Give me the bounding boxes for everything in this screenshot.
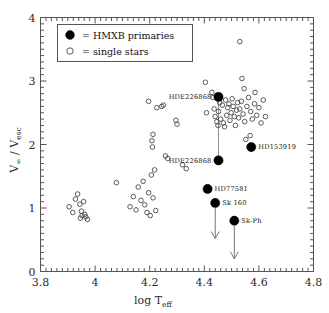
x-axis-title-sub: eff [162, 300, 172, 309]
hmxb-primary-point [211, 198, 220, 207]
hmxb-primary-point [214, 156, 223, 165]
hmxb-primary-point [230, 216, 239, 225]
y-tick-label: 3 [29, 75, 36, 88]
x-tick-label: 4.8 [305, 276, 323, 289]
hmxb-primary-point [203, 184, 212, 193]
scatter-plot-figure: 3.844.24.44.64.8 01234 HDE226868HDE22686… [0, 0, 329, 313]
data-point-label: HDE226868 [169, 157, 212, 165]
data-point-label: HD77581 [215, 185, 248, 193]
y-tick-label: 2 [29, 139, 36, 152]
legend-label-single: = single stars [82, 46, 149, 57]
plot-canvas: 3.844.24.44.64.8 01234 HDE226868HDE22686… [0, 0, 329, 313]
legend-label-hmxb: = HMXB primaries [82, 30, 174, 41]
hmxb-primary-point [247, 142, 256, 151]
legend: = HMXB primaries = single stars [58, 25, 193, 62]
x-tick-label: 4.4 [196, 276, 214, 289]
y-tick-label: 1 [29, 202, 36, 215]
x-tick-label: 4.2 [141, 276, 159, 289]
y-axis-title-denominator-sub: esc [14, 127, 23, 140]
x-tick-label: 4 [92, 276, 99, 289]
data-point-label: HDE226868 [169, 93, 212, 101]
data-point-label: Sk 160 [222, 199, 246, 207]
legend-filled-circle-icon [66, 31, 75, 40]
hmxb-primary-point [214, 92, 223, 101]
x-axis-title-main: log T [134, 294, 163, 307]
data-point-label: Sk-Ph [241, 217, 262, 225]
y-tick-label: 0 [29, 266, 36, 279]
x-tick-label: 4.6 [250, 276, 268, 289]
y-tick-label: 4 [29, 12, 36, 25]
data-point-label: HD153919 [258, 143, 296, 151]
